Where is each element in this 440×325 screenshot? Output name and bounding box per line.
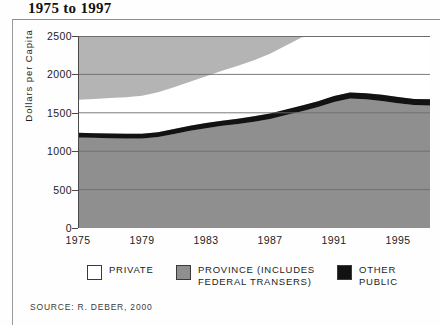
chart-legend: Private Province (includes federal trans… bbox=[60, 262, 435, 296]
y-tick-label: 1000 bbox=[32, 145, 72, 157]
x-tick-label: 1975 bbox=[66, 234, 91, 246]
x-tick-label: 1995 bbox=[386, 234, 411, 246]
x-tick-label: 1983 bbox=[194, 234, 219, 246]
legend-swatch-other-public bbox=[337, 265, 352, 280]
x-tick-label: 1991 bbox=[322, 234, 347, 246]
y-tick-label: 0 bbox=[32, 222, 72, 234]
x-tick-label: 1979 bbox=[130, 234, 155, 246]
plot-top-border bbox=[78, 36, 430, 37]
legend-swatch-private bbox=[87, 265, 102, 280]
legend-label-other-public: Other Public bbox=[359, 264, 435, 287]
legend-item-other-public[interactable]: Other Public bbox=[337, 264, 435, 287]
y-tick-label: 1500 bbox=[32, 107, 72, 119]
y-tick-label: 500 bbox=[32, 184, 72, 196]
y-tick-mark bbox=[72, 228, 78, 229]
x-tick-label: 1987 bbox=[258, 234, 283, 246]
stacked-area-series bbox=[78, 36, 430, 228]
plot-left-axis bbox=[78, 36, 79, 228]
legend-item-province[interactable]: Province (includes federal transers) bbox=[176, 264, 336, 287]
legend-label-province: Province (includes federal transers) bbox=[198, 264, 336, 287]
legend-swatch-province bbox=[176, 265, 191, 280]
legend-label-private: Private bbox=[109, 264, 154, 276]
chart-page: 1975 to 1997 Dollars per Capita 25002000… bbox=[0, 0, 440, 325]
legend-item-private[interactable]: Private bbox=[87, 264, 154, 280]
plot-area bbox=[78, 36, 430, 228]
y-tick-label: 2500 bbox=[32, 30, 72, 42]
source-note: Source: R. Deber, 2000 bbox=[30, 302, 152, 312]
y-tick-label: 2000 bbox=[32, 68, 72, 80]
